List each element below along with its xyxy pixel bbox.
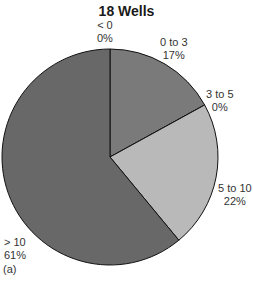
pie-slices xyxy=(2,49,218,265)
label-0to3-pct: 17% xyxy=(160,49,188,62)
label-5to10-pct: 22% xyxy=(218,195,252,208)
pie-chart xyxy=(0,0,253,283)
panel-label: (a) xyxy=(3,263,16,275)
label-gt10: > 10 61% xyxy=(4,236,26,262)
label-gt10-pct: 61% xyxy=(4,249,26,262)
label-gt10-name: > 10 xyxy=(4,236,26,249)
label-5to10: 5 to 10 22% xyxy=(218,182,252,208)
label-0to3: 0 to 3 17% xyxy=(160,36,188,62)
label-3to5-pct: 0% xyxy=(206,101,234,114)
label-5to10-name: 5 to 10 xyxy=(218,182,252,195)
label-0to3-name: 0 to 3 xyxy=(160,36,188,49)
label-lt0: < 0 0% xyxy=(97,19,113,45)
label-3to5: 3 to 5 0% xyxy=(206,88,234,114)
label-lt0-name: < 0 xyxy=(97,19,113,32)
label-3to5-name: 3 to 5 xyxy=(206,88,234,101)
label-lt0-pct: 0% xyxy=(97,32,113,45)
